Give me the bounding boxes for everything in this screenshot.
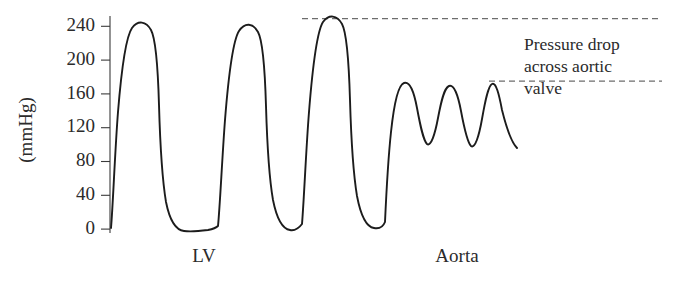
- y-tick-label-80: 80: [76, 149, 95, 170]
- pressure-waveform-figure: 240 200 160 120 80 40 0 (mmHg) LV Aorta …: [0, 0, 674, 284]
- y-tick-label-0: 0: [86, 217, 96, 238]
- chart-canvas: 240 200 160 120 80 40 0 (mmHg) LV Aorta …: [0, 0, 674, 284]
- pressure-drop-annotation: Pressure drop across aortic valve: [524, 34, 620, 98]
- pressure-trace: [111, 17, 517, 232]
- region-label-aorta: Aorta: [435, 245, 479, 266]
- y-axis-ticks: [101, 26, 110, 229]
- y-tick-label-200: 200: [67, 48, 96, 69]
- y-tick-label-40: 40: [76, 183, 95, 204]
- region-label-lv: LV: [192, 245, 216, 266]
- y-axis-title: (mmHg): [15, 97, 37, 162]
- annotation-line-2: across aortic: [524, 56, 612, 76]
- y-tick-label-240: 240: [67, 14, 96, 35]
- y-axis-tick-labels: 240 200 160 120 80 40 0: [67, 14, 96, 238]
- annotation-line-3: valve: [524, 78, 562, 98]
- annotation-line-1: Pressure drop: [524, 34, 620, 54]
- y-tick-label-120: 120: [67, 115, 96, 136]
- y-tick-label-160: 160: [67, 82, 96, 103]
